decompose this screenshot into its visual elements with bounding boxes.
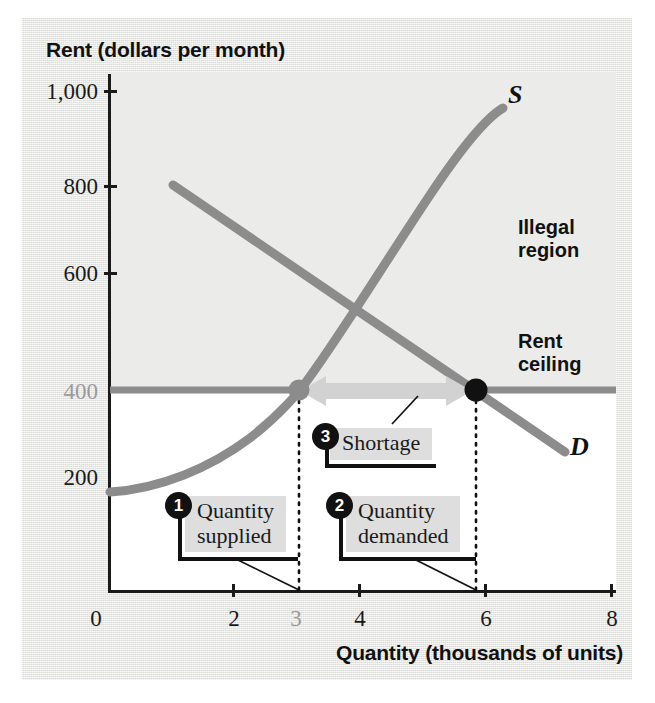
leader-line-demanded bbox=[416, 560, 476, 590]
quantity-demanded-label: Quantity demanded bbox=[346, 496, 460, 552]
shortage-arrow bbox=[300, 376, 472, 406]
illegal-region-label: Illegal region bbox=[518, 216, 579, 262]
badge-3: 3 bbox=[312, 423, 339, 450]
quantity-supplied-label: Quantity supplied bbox=[185, 496, 286, 552]
callout-1-underline bbox=[178, 557, 298, 561]
figure-root: Rent (dollars per month) 1,000 800 600 4… bbox=[0, 0, 655, 703]
rent-ceiling-label: Rent ceiling bbox=[518, 330, 581, 376]
supply-curve-label: S bbox=[508, 80, 522, 110]
callout-2-underline bbox=[339, 557, 476, 561]
demand-curve-label: D bbox=[570, 432, 589, 462]
callout-3-underline bbox=[325, 464, 436, 468]
badge-1: 1 bbox=[165, 492, 192, 519]
supply-curve bbox=[110, 108, 503, 492]
demand-curve bbox=[173, 185, 565, 452]
leader-line-supplied bbox=[238, 560, 299, 590]
badge-2: 2 bbox=[326, 492, 353, 519]
shortage-label: Shortage bbox=[330, 428, 432, 460]
leader-line-shortage bbox=[392, 396, 418, 424]
quantity-demanded-point bbox=[465, 379, 488, 402]
quantity-supplied-point bbox=[289, 380, 310, 401]
